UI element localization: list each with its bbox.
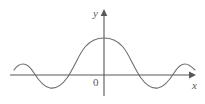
origin-label: 0 xyxy=(93,77,99,88)
math-figure-container: y x 0 xyxy=(0,0,205,104)
wave-plot-svg xyxy=(0,0,205,104)
y-axis-label: y xyxy=(93,8,98,19)
x-axis-arrow-icon xyxy=(189,72,196,79)
x-axis-group xyxy=(10,72,196,79)
x-axis-label: x xyxy=(192,80,197,91)
y-axis-arrow-icon xyxy=(101,9,108,16)
y-axis-group xyxy=(101,9,108,96)
